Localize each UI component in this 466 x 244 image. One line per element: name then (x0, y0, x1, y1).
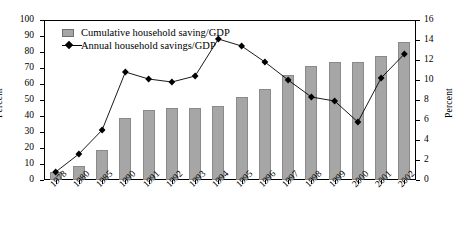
right-tick-label: 12 (424, 55, 450, 64)
left-axis-title: Percent (0, 88, 4, 118)
right-tick (416, 180, 420, 181)
x-axis-labels: 1978198019851990199119921993199419951996… (44, 182, 416, 242)
line-marker-diamond (122, 69, 129, 76)
right-tick (416, 160, 420, 161)
right-tick-label: 6 (424, 115, 450, 124)
line-marker-diamond (145, 76, 152, 83)
left-tick-label: 100 (8, 15, 34, 24)
left-tick-label: 80 (8, 47, 34, 56)
legend-item-annual: Annual household savings/GDP (62, 39, 230, 52)
left-tick-label: 90 (8, 31, 34, 40)
line-marker-diamond (168, 79, 175, 86)
right-tick (416, 140, 420, 141)
left-tick-label: 30 (8, 127, 34, 136)
line-path (56, 39, 405, 172)
line-marker-diamond (192, 73, 199, 80)
left-tick-label: 10 (8, 159, 34, 168)
right-tick-label: 14 (424, 35, 450, 44)
legend-label-cumulative: Cumulative household saving/GDP (81, 26, 230, 39)
right-tick-label: 10 (424, 75, 450, 84)
line-marker-diamond (308, 94, 315, 101)
right-tick (416, 120, 420, 121)
chart-legend: Cumulative household saving/GDP Annual h… (62, 26, 230, 52)
left-tick-label: 70 (8, 63, 34, 72)
right-tick-label: 16 (424, 15, 450, 24)
chart-container: Percent Percent 0102030405060708090100 0… (0, 0, 466, 244)
left-tick-label: 60 (8, 79, 34, 88)
left-tick-label: 0 (8, 175, 34, 184)
right-tick (416, 40, 420, 41)
right-tick (416, 60, 420, 61)
line-diamond-icon (62, 42, 74, 50)
right-tick-label: 4 (424, 135, 450, 144)
left-tick-label: 50 (8, 95, 34, 104)
legend-label-annual: Annual household savings/GDP (81, 39, 216, 52)
right-tick (416, 20, 420, 21)
right-tick (416, 80, 420, 81)
legend-item-cumulative: Cumulative household saving/GDP (62, 26, 230, 39)
line-marker-diamond (238, 43, 245, 50)
bar-swatch-icon (62, 29, 74, 37)
right-tick (416, 100, 420, 101)
left-tick-label: 20 (8, 143, 34, 152)
right-tick-label: 8 (424, 95, 450, 104)
right-tick-label: 0 (424, 175, 450, 184)
right-tick-label: 2 (424, 155, 450, 164)
left-tick (40, 180, 44, 181)
left-tick-label: 40 (8, 111, 34, 120)
